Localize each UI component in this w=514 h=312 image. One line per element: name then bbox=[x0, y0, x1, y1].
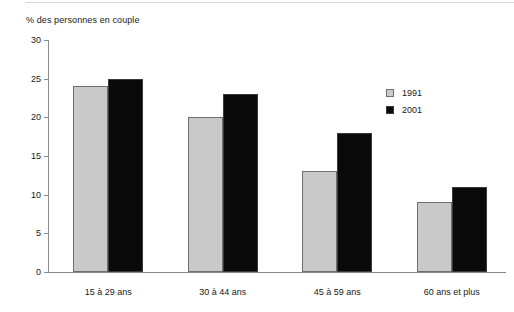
y-tick-mark bbox=[44, 40, 49, 41]
y-tick-label: 15 bbox=[31, 151, 41, 161]
y-tick-label: 10 bbox=[31, 190, 41, 200]
category-label: 60 ans et plus bbox=[424, 287, 480, 297]
y-tick-mark bbox=[44, 117, 49, 118]
y-tick-label: 20 bbox=[31, 112, 41, 122]
y-tick-mark bbox=[44, 156, 49, 157]
bar-1991-30 à 44 ans bbox=[188, 117, 223, 272]
legend-item-2001: 2001 bbox=[386, 101, 422, 118]
y-tick-mark bbox=[44, 79, 49, 80]
y-tick-mark bbox=[44, 272, 49, 273]
legend-item-1991: 1991 bbox=[386, 84, 422, 101]
top-divider-rule bbox=[25, 2, 514, 3]
y-tick-label: 30 bbox=[31, 35, 41, 45]
chart-axis-title: % des personnes en couple bbox=[26, 15, 140, 25]
y-tick-mark bbox=[44, 233, 49, 234]
bar-2001-30 à 44 ans bbox=[223, 94, 258, 272]
y-tick-label: 5 bbox=[36, 228, 41, 238]
y-tick-label: 25 bbox=[31, 74, 41, 84]
plot-area: 051015202530 bbox=[48, 40, 506, 272]
category-label: 45 à 59 ans bbox=[314, 287, 361, 297]
chart-legend: 19912001 bbox=[386, 84, 422, 118]
bar-2001-60 ans et plus bbox=[452, 187, 487, 272]
bar-1991-45 à 59 ans bbox=[302, 171, 337, 272]
bar-1991-15 à 29 ans bbox=[73, 86, 108, 272]
legend-label: 2001 bbox=[402, 105, 422, 115]
bar-chart-figure: % des personnes en couple 051015202530 1… bbox=[0, 0, 514, 312]
y-tick-label: 0 bbox=[36, 267, 41, 277]
bar-1991-60 ans et plus bbox=[417, 202, 452, 272]
category-label: 15 à 29 ans bbox=[85, 287, 132, 297]
category-label: 30 à 44 ans bbox=[199, 287, 246, 297]
legend-swatch-icon bbox=[386, 89, 394, 97]
legend-swatch-icon bbox=[386, 106, 394, 114]
bar-2001-15 à 29 ans bbox=[108, 79, 143, 272]
bar-2001-45 à 59 ans bbox=[337, 133, 372, 272]
legend-label: 1991 bbox=[402, 88, 422, 98]
y-tick-mark bbox=[44, 195, 49, 196]
x-axis-line bbox=[48, 272, 506, 273]
